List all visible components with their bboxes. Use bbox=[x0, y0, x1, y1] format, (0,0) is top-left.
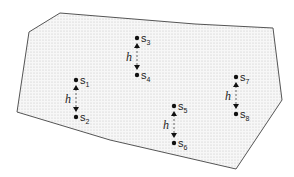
point-s1 bbox=[74, 78, 78, 82]
point-s6 bbox=[172, 141, 176, 145]
point-s8 bbox=[234, 112, 238, 116]
h-distance-label: h bbox=[163, 118, 169, 132]
point-s7 bbox=[234, 75, 238, 79]
h-distance-label: h bbox=[126, 50, 132, 64]
point-s3 bbox=[135, 36, 139, 40]
diagram-canvas: s1s2hs3s4hs5s6hs7s8h bbox=[0, 0, 294, 177]
point-s2 bbox=[74, 115, 78, 119]
h-distance-label: h bbox=[225, 89, 231, 103]
region-polygon bbox=[17, 13, 282, 169]
h-distance-label: h bbox=[65, 92, 71, 106]
point-s5 bbox=[172, 104, 176, 108]
point-s4 bbox=[135, 73, 139, 77]
diagram: s1s2hs3s4hs5s6hs7s8h bbox=[0, 0, 294, 177]
